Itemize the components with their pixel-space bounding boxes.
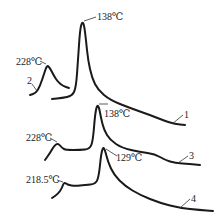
c1-peak-label: 138℃ (97, 11, 123, 22)
c4-peak-low-label: 218.5℃ (26, 174, 60, 185)
c4-peak-high-label: 129℃ (116, 152, 142, 163)
leader-c4-num (180, 199, 190, 208)
curve-2 (30, 66, 69, 95)
leader-c1-num (172, 115, 183, 124)
c4-number-label: 4 (191, 193, 196, 204)
thermal-curves-chart: 138℃ 1 228℃ 2 228℃ 138℃ 3 218.5℃ 129℃ 4 (0, 0, 222, 224)
c3-peak-low-label: 228℃ (26, 132, 52, 143)
leader-c2-num (32, 84, 37, 91)
c3-number-label: 3 (189, 150, 194, 161)
c3-peak-high-label: 138℃ (104, 108, 130, 119)
leader-c1-peak (84, 17, 96, 21)
c2-number-label: 2 (27, 75, 32, 86)
leader-c3-num (178, 156, 188, 163)
c2-peak-label: 228℃ (16, 56, 42, 67)
c1-number-label: 1 (184, 109, 189, 120)
